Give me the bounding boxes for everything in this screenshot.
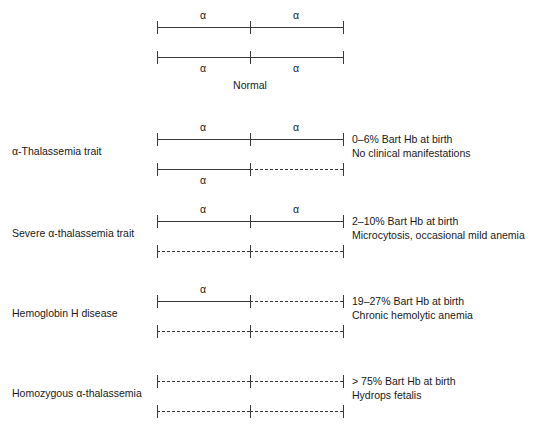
- alpha-gene-label: α: [188, 63, 218, 74]
- group-label-hemoglobin-h-disease: Hemoglobin H disease: [12, 308, 118, 319]
- locus-tick-marker-0: [157, 405, 158, 418]
- chromosome-bar: [157, 381, 343, 382]
- alpha-thalassemia-diagram: Normalααααα-Thalassemia trait0–6% Bart H…: [0, 0, 543, 431]
- locus-tick-marker-1: [250, 295, 251, 308]
- locus-tick-marker-2: [343, 21, 344, 34]
- group-caption-normal: Normal: [157, 80, 343, 91]
- locus-tick-marker-0: [157, 163, 158, 176]
- gene-locus-segment-left-present: [157, 57, 250, 58]
- locus-tick-marker-0: [157, 245, 158, 258]
- alpha-gene-label: α: [281, 204, 311, 215]
- locus-tick-marker-2: [343, 405, 344, 418]
- locus-tick-marker-1: [250, 375, 251, 388]
- chromosome-bar: αα: [157, 27, 343, 28]
- locus-tick-marker-0: [157, 133, 158, 146]
- locus-tick-marker-2: [343, 295, 344, 308]
- gene-locus-segment-left-deleted: [157, 331, 250, 332]
- locus-tick-marker-2: [343, 215, 344, 228]
- locus-tick-marker-0: [157, 21, 158, 34]
- description-line: No clinical manifestations: [352, 146, 470, 160]
- group-description-hemoglobin-h-disease: 19–27% Bart Hb at birthChronic hemolytic…: [352, 294, 473, 322]
- locus-tick-marker-1: [250, 51, 251, 64]
- chromosome-bar: αα: [157, 139, 343, 140]
- locus-tick-marker-0: [157, 51, 158, 64]
- chromosome-bar: [157, 411, 343, 412]
- gene-locus-segment-left-deleted: [157, 381, 250, 382]
- locus-tick-marker-2: [343, 375, 344, 388]
- chromosome-bar: αα: [157, 57, 343, 58]
- locus-tick-marker-0: [157, 375, 158, 388]
- gene-locus-segment-right-deleted: [250, 331, 343, 332]
- alpha-gene-label: α: [188, 175, 218, 186]
- locus-tick-marker-1: [250, 163, 251, 176]
- chromosome-bar: [157, 251, 343, 252]
- gene-locus-segment-left-present: [157, 139, 250, 140]
- description-line: Chronic hemolytic anemia: [352, 308, 473, 322]
- locus-tick-marker-1: [250, 215, 251, 228]
- locus-tick-marker-1: [250, 133, 251, 146]
- group-label-alpha-thalassemia-trait: α-Thalassemia trait: [12, 146, 102, 157]
- locus-tick-marker-0: [157, 325, 158, 338]
- locus-tick-marker-2: [343, 163, 344, 176]
- gene-locus-segment-right-deleted: [250, 301, 343, 302]
- chromosome-bar: α: [157, 169, 343, 170]
- gene-locus-segment-right-present: [250, 221, 343, 222]
- alpha-gene-label: α: [188, 10, 218, 21]
- alpha-gene-label: α: [281, 10, 311, 21]
- alpha-gene-label: α: [188, 122, 218, 133]
- gene-locus-segment-left-deleted: [157, 411, 250, 412]
- locus-tick-marker-2: [343, 245, 344, 258]
- gene-locus-segment-right-deleted: [250, 251, 343, 252]
- group-description-homozygous-alpha-thalassemia: > 75% Bart Hb at birthHydrops fetalis: [352, 374, 456, 402]
- chromosome-bar: [157, 331, 343, 332]
- locus-tick-marker-2: [343, 133, 344, 146]
- description-line: Microcytosis, occasional mild anemia: [352, 228, 525, 242]
- gene-locus-segment-right-present: [250, 57, 343, 58]
- gene-locus-segment-left-present: [157, 221, 250, 222]
- gene-locus-segment-left-present: [157, 169, 250, 170]
- group-description-alpha-thalassemia-trait: 0–6% Bart Hb at birthNo clinical manifes…: [352, 132, 470, 160]
- description-line: 0–6% Bart Hb at birth: [352, 132, 470, 146]
- locus-tick-marker-0: [157, 295, 158, 308]
- locus-tick-marker-1: [250, 245, 251, 258]
- alpha-gene-label: α: [281, 122, 311, 133]
- locus-tick-marker-1: [250, 21, 251, 34]
- gene-locus-segment-right-deleted: [250, 411, 343, 412]
- chromosome-bar: α: [157, 301, 343, 302]
- chromosome-bar: αα: [157, 221, 343, 222]
- gene-locus-segment-right-deleted: [250, 381, 343, 382]
- alpha-gene-label: α: [281, 63, 311, 74]
- alpha-gene-label: α: [188, 204, 218, 215]
- gene-locus-segment-left-deleted: [157, 251, 250, 252]
- locus-tick-marker-0: [157, 215, 158, 228]
- gene-locus-segment-right-present: [250, 27, 343, 28]
- group-label-homozygous-alpha-thalassemia: Homozygous α-thalassemia: [12, 388, 142, 399]
- description-line: 2–10% Bart Hb at birth: [352, 214, 525, 228]
- locus-tick-marker-2: [343, 51, 344, 64]
- gene-locus-segment-left-present: [157, 27, 250, 28]
- alpha-gene-label: α: [188, 284, 218, 295]
- locus-tick-marker-1: [250, 405, 251, 418]
- group-label-severe-alpha-thalassemia-trait: Severe α-thalassemia trait: [12, 228, 134, 239]
- locus-tick-marker-1: [250, 325, 251, 338]
- gene-locus-segment-right-present: [250, 139, 343, 140]
- group-description-severe-alpha-thalassemia-trait: 2–10% Bart Hb at birthMicrocytosis, occa…: [352, 214, 525, 242]
- description-line: 19–27% Bart Hb at birth: [352, 294, 473, 308]
- description-line: Hydrops fetalis: [352, 388, 456, 402]
- gene-locus-segment-left-present: [157, 301, 250, 302]
- gene-locus-segment-right-deleted: [250, 169, 343, 170]
- description-line: > 75% Bart Hb at birth: [352, 374, 456, 388]
- locus-tick-marker-2: [343, 325, 344, 338]
